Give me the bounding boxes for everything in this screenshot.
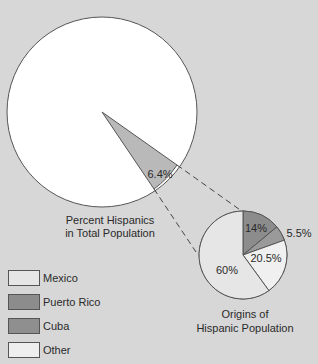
- puerto-rico-label: 14%: [245, 222, 267, 234]
- origins-pie-title-line2: Hispanic Population: [196, 322, 293, 334]
- legend-swatch-other: [8, 342, 40, 358]
- legend-swatch-mexico: [8, 270, 40, 286]
- legend-swatch-puerto-rico: [8, 294, 40, 310]
- connector-line-lower: [154, 189, 196, 252]
- legend-item-other: Other: [8, 338, 100, 362]
- legend-label-cuba: Cuba: [43, 320, 69, 332]
- hispanic-slice-label: 6.4%: [147, 168, 172, 180]
- total-pie-title-line1: Percent Hispanics: [66, 214, 155, 226]
- total-pie-title-line2: in Total Population: [65, 227, 155, 239]
- legend-item-cuba: Cuba: [8, 314, 100, 338]
- other-label: 20.5%: [250, 252, 281, 264]
- mexico-label: 60%: [216, 264, 238, 276]
- legend-item-puerto-rico: Puerto Rico: [8, 290, 100, 314]
- origins-pie-title-line1: Origins of: [221, 308, 269, 320]
- legend-label-mexico: Mexico: [43, 272, 78, 284]
- connector-line-upper: [177, 165, 243, 212]
- cuba-label: 5.5%: [286, 227, 311, 239]
- legend-label-puerto-rico: Puerto Rico: [43, 296, 100, 308]
- legend-swatch-cuba: [8, 318, 40, 334]
- legend: Mexico Puerto Rico Cuba Other: [8, 266, 100, 362]
- legend-label-other: Other: [43, 344, 71, 356]
- legend-item-mexico: Mexico: [8, 266, 100, 290]
